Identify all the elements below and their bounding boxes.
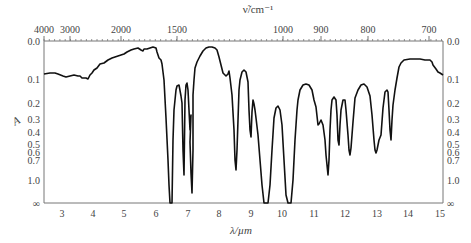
top-tick-label: 1000 — [273, 24, 293, 35]
bottom-tick-label: 10 — [277, 208, 287, 219]
left-tick-label: 0.0 — [28, 36, 41, 47]
bottom-tick-label: 12 — [340, 208, 350, 219]
bottom-tick-label: 6 — [154, 208, 159, 219]
left-tick-label: 1.0 — [28, 175, 41, 186]
bottom-tick-label: 3 — [60, 208, 65, 219]
right-tick-label: 0.1 — [447, 74, 460, 85]
right-tick-label: 1.0 — [447, 175, 460, 186]
right-tick-label: 0.0 — [447, 36, 460, 47]
ir-spectrum-chart: 40003000200015001000900800700 3456789101… — [0, 0, 471, 243]
left-axis-absorbance: 0.00.10.20.30.40.50.60.71.0∞ — [28, 36, 41, 209]
bottom-tick-label: 11 — [309, 208, 319, 219]
bottom-tick-label: 9 — [249, 208, 254, 219]
bottom-tick-label: 7 — [186, 208, 191, 219]
top-axis-title: ν̃/cm⁻¹ — [243, 3, 274, 15]
left-tick-label: 0.4 — [28, 127, 41, 138]
spectrum-curve — [44, 47, 443, 203]
right-tick-label: 0.3 — [447, 114, 460, 125]
right-tick-label: 0.2 — [447, 98, 460, 109]
right-tick-label: 0.7 — [447, 155, 460, 166]
bottom-tick-label: 15 — [435, 208, 445, 219]
top-tick-label: 1500 — [167, 24, 187, 35]
right-axis-absorbance: 0.00.10.20.30.40.50.60.71.0∞ — [447, 36, 460, 209]
left-tick-label: ∞ — [33, 198, 40, 209]
left-tick-label: 0.3 — [28, 114, 41, 125]
top-tick-label: 3000 — [60, 24, 80, 35]
top-tick-label: 900 — [314, 24, 329, 35]
y-axis-title: A — [9, 114, 22, 128]
top-axis-wavenumber: 40003000200015001000900800700 — [34, 24, 442, 41]
right-tick-label: 0.4 — [447, 127, 460, 138]
right-tick-label: ∞ — [447, 198, 454, 209]
bottom-axis-title: λ/µm — [229, 224, 252, 236]
bottom-tick-label: 4 — [91, 208, 96, 219]
left-tick-label: 0.2 — [28, 98, 41, 109]
left-tick-label: 0.7 — [28, 155, 41, 166]
top-tick-label: 4000 — [34, 24, 54, 35]
plot-frame — [44, 41, 443, 203]
bottom-tick-label: 5 — [122, 208, 127, 219]
bottom-tick-label: 8 — [217, 208, 222, 219]
bottom-tick-label: 14 — [403, 208, 413, 219]
top-tick-label: 700 — [422, 24, 437, 35]
top-tick-label: 800 — [361, 24, 376, 35]
bottom-axis-wavelength: 3456789101112131415 — [60, 208, 446, 219]
top-tick-label: 2000 — [111, 24, 131, 35]
bottom-tick-label: 13 — [372, 208, 382, 219]
left-tick-label: 0.1 — [28, 74, 41, 85]
